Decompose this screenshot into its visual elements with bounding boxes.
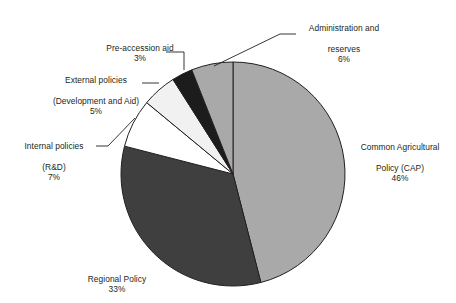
pie-label-cap-line1: Common Agricultural <box>361 142 440 152</box>
pie-label-administration: Administration and reserves 6% <box>283 12 405 76</box>
pie-label-administration-line1: Administration and <box>309 23 379 33</box>
pie-label-external-line2: (Development and Aid) <box>53 96 139 106</box>
pie-label-administration-line2: reserves <box>328 44 361 54</box>
pie-label-cap-percent: 46% <box>345 173 455 184</box>
pie-label-cap-line2: Policy (CAP) <box>376 163 424 173</box>
pie-label-administration-percent: 6% <box>283 54 405 65</box>
pie-chart: Administration and reserves 6% Common Ag… <box>0 0 456 303</box>
pie-label-regional-line1: Regional Policy <box>88 274 146 284</box>
pie-label-internal-line1: Internal policies <box>24 141 83 151</box>
pie-label-regional-percent: 33% <box>58 284 176 295</box>
pie-label-external-percent: 5% <box>26 106 166 117</box>
pie-label-internal-percent: 7% <box>0 172 110 183</box>
pie-label-preaccession-percent: 3% <box>78 53 202 64</box>
pie-label-preaccession-line1: Pre-accession aid <box>106 43 173 53</box>
pie-label-cap: Common Agricultural Policy (CAP) 46% <box>345 131 455 195</box>
pie-label-preaccession: Pre-accession aid 3% <box>78 32 202 74</box>
pie-label-regional: Regional Policy 33% <box>58 263 176 303</box>
pie-label-internal: Internal policies (R&D) 7% <box>0 130 110 194</box>
pie-label-internal-line2: (R&D) <box>42 162 66 172</box>
pie-label-external-line1: External policies <box>65 75 127 85</box>
